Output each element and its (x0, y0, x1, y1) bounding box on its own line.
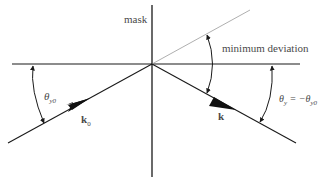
theta-y0-eq-subscript: y0 (310, 99, 317, 107)
equals-neg-theta: = −θ (287, 93, 310, 104)
k-label: k (218, 111, 224, 122)
theta-y0-arc (32, 66, 44, 123)
theta-y0-subscript: y0 (49, 97, 56, 105)
k0-subscript: 0 (87, 120, 91, 128)
deflection-diagram: mask minimum deviation θy0 k0 k θy = −θy… (0, 0, 328, 183)
k0-arrow-icon (68, 98, 90, 110)
theta-y-equation-label: θy = −θy0 (279, 94, 317, 107)
mask-label: mask (124, 14, 147, 25)
k0-label: k0 (81, 114, 91, 128)
undeviated-extension-line (152, 10, 250, 64)
minimum-deviation-label: minimum deviation (222, 43, 308, 54)
theta-y0-label: θy0 (44, 91, 56, 105)
theta-y-arc (260, 66, 272, 122)
k-arrowhead-icon (209, 97, 236, 110)
